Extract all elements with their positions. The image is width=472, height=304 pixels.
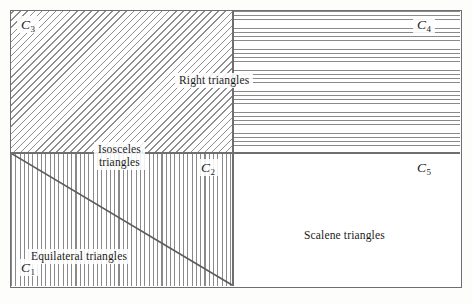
region-label-c5: C5 — [413, 159, 435, 176]
set-label-isosceles-line1: Isosceles — [98, 143, 141, 156]
set-label-isosceles-triangles: Isosceles triangles — [94, 142, 145, 170]
region-label-c3: C3 — [17, 16, 39, 33]
horizontal-divider — [11, 152, 460, 154]
diagram-canvas: C3 C4 C2 C5 C1 Right triangles Isosceles… — [0, 0, 472, 304]
diagram-frame: C3 C4 C2 C5 C1 Right triangles Isosceles… — [10, 10, 462, 288]
set-label-equilateral-triangles: Equilateral triangles — [27, 249, 131, 264]
set-label-scalene-triangles: Scalene triangles — [300, 228, 389, 243]
region-label-c2: C2 — [197, 159, 219, 176]
vertical-divider — [232, 11, 234, 286]
set-label-isosceles-line2: triangles — [98, 156, 141, 169]
region-label-c4: C4 — [413, 16, 435, 33]
set-label-right-triangles: Right triangles — [175, 73, 253, 88]
